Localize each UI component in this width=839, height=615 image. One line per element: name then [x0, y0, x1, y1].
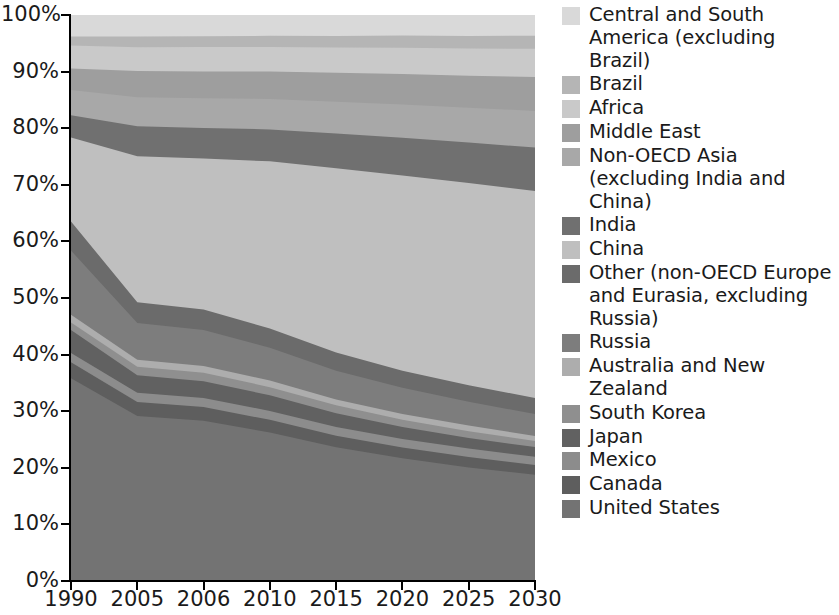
x-axis-tick-label: 2015 — [301, 589, 371, 610]
stacked-area-svg — [71, 15, 535, 581]
legend-item[interactable]: South Korea — [548, 402, 839, 425]
y-axis-tick-label: 70% — [1, 174, 59, 195]
y-axis-tick — [61, 523, 70, 525]
y-axis-labels: 0%10%20%30%40%50%60%70%80%90%100% — [0, 0, 59, 615]
plot-wrapper: 0%10%20%30%40%50%60%70%80%90%100% 199020… — [0, 0, 545, 615]
legend-item-label: Africa — [589, 97, 644, 120]
y-axis-tick-label: 10% — [1, 513, 59, 534]
legend-item[interactable]: Middle East — [548, 121, 839, 144]
y-axis-tick-label: 50% — [1, 287, 59, 308]
legend-swatch-icon — [562, 405, 580, 423]
legend-item[interactable]: Non-OECD Asia (excluding India and China… — [548, 145, 839, 213]
y-axis-tick-label: 20% — [1, 457, 59, 478]
legend-item[interactable]: Mexico — [548, 449, 839, 472]
legend-item-label: Other (non-OECD Europe and Eurasia, excl… — [589, 262, 839, 330]
y-axis-tick-label: 60% — [1, 230, 59, 251]
legend-item[interactable]: Brazil — [548, 73, 839, 96]
legend-item-label: South Korea — [589, 402, 706, 425]
legend-swatch-icon — [562, 452, 580, 470]
legend-item[interactable]: Africa — [548, 97, 839, 120]
y-axis-tick — [61, 297, 70, 299]
legend-swatch-icon — [562, 76, 580, 94]
y-axis-tick-label: 40% — [1, 344, 59, 365]
stacked-area-plot — [71, 15, 535, 581]
legend-item-label: Russia — [589, 331, 651, 354]
legend-swatch-icon — [562, 148, 580, 166]
y-axis-tick — [61, 580, 70, 582]
x-axis-tick-label: 2005 — [102, 589, 172, 610]
legend-item[interactable]: Japan — [548, 426, 839, 449]
legend-swatch-icon — [562, 241, 580, 259]
legend-item-label: Non-OECD Asia (excluding India and China… — [589, 145, 839, 213]
legend-swatch-icon — [562, 334, 580, 352]
y-axis-tick — [61, 354, 70, 356]
legend-item[interactable]: Australia and New Zealand — [548, 355, 839, 401]
y-axis-tick — [61, 467, 70, 469]
y-axis-tick — [61, 410, 70, 412]
legend-item-label: Japan — [589, 426, 643, 449]
y-axis-tick — [61, 127, 70, 129]
legend-swatch-icon — [562, 124, 580, 142]
legend-item-label: China — [589, 238, 644, 261]
legend-item-label: Brazil — [589, 73, 643, 96]
x-axis-tick-label: 2030 — [500, 589, 570, 610]
legend-item[interactable]: Russia — [548, 331, 839, 354]
x-axis-line — [69, 580, 536, 582]
y-axis-tick — [61, 184, 70, 186]
legend-item[interactable]: Canada — [548, 473, 839, 496]
legend-item-label: Australia and New Zealand — [589, 355, 839, 401]
legend-item[interactable]: United States — [548, 497, 839, 520]
legend-item[interactable]: India — [548, 214, 839, 237]
chart-root: 0%10%20%30%40%50%60%70%80%90%100% 199020… — [0, 0, 839, 615]
y-axis-tick — [61, 71, 70, 73]
chart-legend: Central and South America (excluding Bra… — [548, 4, 839, 521]
legend-item[interactable]: China — [548, 238, 839, 261]
y-axis-tick — [61, 240, 70, 242]
legend-swatch-icon — [562, 476, 580, 494]
legend-item-label: Middle East — [589, 121, 701, 144]
y-axis-tick-label: 100% — [1, 4, 59, 25]
x-axis-tick-label: 2020 — [367, 589, 437, 610]
legend-swatch-icon — [562, 265, 580, 283]
legend-swatch-icon — [562, 500, 580, 518]
x-axis-tick-label: 1990 — [36, 589, 106, 610]
x-axis-tick-label: 2025 — [434, 589, 504, 610]
y-axis-tick-label: 30% — [1, 400, 59, 421]
y-axis-tick — [61, 14, 70, 16]
legend-item-label: India — [589, 214, 636, 237]
legend-item[interactable]: Central and South America (excluding Bra… — [548, 4, 839, 72]
legend-swatch-icon — [562, 217, 580, 235]
legend-swatch-icon — [562, 7, 580, 25]
legend-item-label: Canada — [589, 473, 663, 496]
legend-item-label: Central and South America (excluding Bra… — [589, 4, 839, 72]
legend-item-label: Mexico — [589, 449, 657, 472]
legend-item[interactable]: Other (non-OECD Europe and Eurasia, excl… — [548, 262, 839, 330]
legend-swatch-icon — [562, 358, 580, 376]
y-axis-tick-label: 80% — [1, 117, 59, 138]
y-axis-tick-label: 90% — [1, 61, 59, 82]
legend-item-label: United States — [589, 497, 720, 520]
x-axis-tick-label: 2010 — [235, 589, 305, 610]
legend-swatch-icon — [562, 100, 580, 118]
x-axis-tick-label: 2006 — [169, 589, 239, 610]
legend-swatch-icon — [562, 429, 580, 447]
